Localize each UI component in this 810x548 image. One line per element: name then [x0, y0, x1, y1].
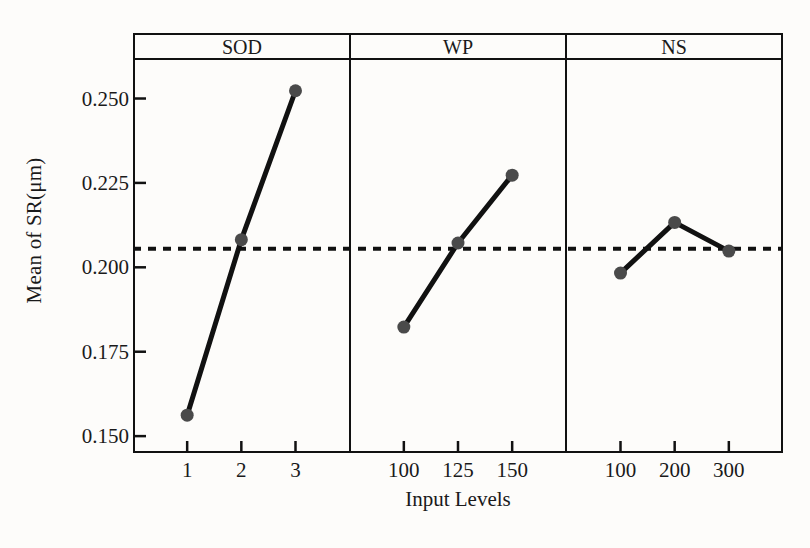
x-tick-label: 1 — [182, 458, 193, 483]
y-tick-label: 0.225 — [61, 170, 129, 195]
x-axis-title: Input Levels — [133, 487, 783, 512]
y-tick-label: 0.150 — [61, 424, 129, 449]
panel-header-label: SOD — [222, 37, 262, 57]
panel-header-strip: SODWPNS — [135, 35, 781, 60]
panel-bodies — [135, 60, 781, 451]
x-tick-label: 300 — [713, 458, 745, 483]
x-tick-label: 100 — [605, 458, 637, 483]
panel-body-wp — [349, 60, 565, 451]
x-tick-label: 100 — [388, 458, 420, 483]
plot-frame: SODWPNS — [133, 33, 783, 453]
x-tick-label: 200 — [659, 458, 691, 483]
panel-header-label: NS — [661, 37, 687, 57]
panel-header-label: WP — [443, 37, 473, 57]
y-tick-label: 0.250 — [61, 86, 129, 111]
panel-body-ns — [565, 60, 781, 451]
panel-header-sod: SOD — [135, 35, 349, 58]
x-tick-label: 125 — [442, 458, 474, 483]
x-tick-label: 3 — [290, 458, 301, 483]
x-tick-label: 2 — [236, 458, 247, 483]
panel-body-sod — [135, 60, 349, 451]
y-tick-label: 0.175 — [61, 339, 129, 364]
panel-header-ns: NS — [565, 35, 781, 58]
y-axis-title-text: Mean of SR(μm) — [23, 157, 48, 303]
x-tick-label: 150 — [496, 458, 528, 483]
y-tick-label: 0.200 — [61, 255, 129, 280]
y-axis-tick-labels: 0.1500.1750.2000.2250.250 — [55, 0, 129, 548]
panel-header-wp: WP — [349, 35, 565, 58]
main-effects-plot: Mean of SR(μm) 0.1500.1750.2000.2250.250… — [0, 0, 810, 548]
y-axis-title: Mean of SR(μm) — [10, 0, 60, 460]
